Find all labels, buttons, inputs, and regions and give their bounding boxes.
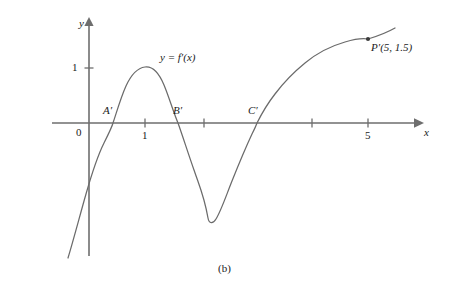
x-tick-label-1: 1 [142, 130, 148, 141]
point-label-a-prime: A′ [103, 105, 112, 116]
y-axis [84, 17, 93, 256]
y-axis-label: y [79, 18, 84, 29]
curve-equation-label: y = f′(x) [160, 52, 195, 63]
point-label-b-prime: B′ [173, 105, 182, 116]
point-label-p-prime: P′(5, 1.5) [371, 42, 412, 53]
origin-label: 0 [76, 127, 82, 138]
figure-panel: y x 0 1 1 5 y = f′(x) A′ B′ C′ P′(5, 1.5… [0, 0, 449, 284]
point-label-c-prime: C′ [248, 105, 258, 116]
x-axis-label: x [424, 127, 429, 138]
y-tick-label-1: 1 [72, 62, 78, 73]
derivative-curve [68, 28, 395, 258]
x-tick-label-5: 5 [365, 130, 371, 141]
figure-caption: (b) [0, 262, 449, 274]
point-marker-p-prime [366, 37, 370, 41]
